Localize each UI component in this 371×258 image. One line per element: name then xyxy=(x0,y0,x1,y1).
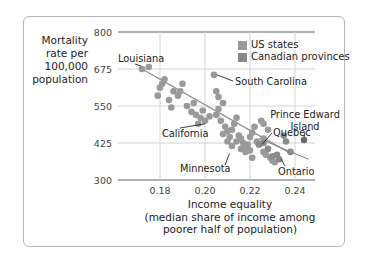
annotation-label: California xyxy=(162,128,209,139)
us-state-point xyxy=(168,104,175,111)
us-state-point xyxy=(213,112,220,119)
us-state-point xyxy=(220,100,227,107)
y-tick-label: 675 xyxy=(94,64,112,75)
us-state-point xyxy=(215,94,222,101)
us-state-point xyxy=(249,155,256,162)
us-state-point xyxy=(265,126,272,133)
x-tick-label: 0.18 xyxy=(149,185,170,196)
us-state-point xyxy=(184,103,191,110)
canadian-province-point xyxy=(287,149,294,156)
x-axis-label-line: (median share of income among xyxy=(130,211,330,224)
y-tick-label: 800 xyxy=(94,27,112,38)
canadian-province-point xyxy=(283,138,290,145)
canadian-province-point xyxy=(269,153,276,160)
us-state-point xyxy=(220,131,227,138)
us-state-point xyxy=(233,115,240,122)
us-state-point xyxy=(251,123,258,130)
us-state-point xyxy=(213,88,220,95)
x-axis-label-line: poorer half of population) xyxy=(130,223,330,236)
us-state-point xyxy=(229,126,236,133)
us-state-point xyxy=(154,92,161,99)
y-tick-label: 425 xyxy=(94,138,112,149)
annotation-label: Minnesota xyxy=(180,163,231,174)
legend-swatch-canada xyxy=(238,53,247,62)
us-state-point xyxy=(244,141,251,148)
legend: US states Canadian provinces xyxy=(238,39,350,63)
us-state-point xyxy=(211,72,218,79)
annotation-label: Louisiana xyxy=(118,53,164,64)
us-state-point xyxy=(139,66,146,73)
us-state-point xyxy=(190,100,197,107)
us-state-point xyxy=(166,97,173,104)
us-state-point xyxy=(249,129,256,136)
us-state-point xyxy=(177,88,184,95)
legend-label: US states xyxy=(251,39,298,51)
us-state-point xyxy=(195,120,202,127)
annotation-label: Prince Edward xyxy=(270,109,340,120)
annotation-leader xyxy=(281,159,285,166)
legend-swatch-us xyxy=(238,41,247,50)
us-state-point xyxy=(260,120,267,127)
annotation-label: South Carolina xyxy=(235,76,307,87)
x-axis-label: Income equality (median share of income … xyxy=(130,198,330,236)
x-tick-label: 0.22 xyxy=(239,185,260,196)
us-state-point xyxy=(231,120,238,127)
us-state-point xyxy=(145,64,152,71)
us-state-point xyxy=(217,118,224,125)
annotation-label: Ontario xyxy=(278,166,315,177)
legend-item-us: US states xyxy=(238,39,350,51)
legend-item-canada: Canadian provinces xyxy=(238,51,350,63)
us-state-point xyxy=(224,138,231,145)
annotation-leader xyxy=(217,75,233,81)
y-tick-label: 300 xyxy=(94,175,112,186)
us-state-point xyxy=(179,81,186,88)
x-axis-label-line: Income equality xyxy=(130,198,330,211)
us-state-point xyxy=(206,113,213,120)
us-state-point xyxy=(238,146,245,153)
y-tick-label: 550 xyxy=(94,101,112,112)
us-state-point xyxy=(215,106,222,113)
x-tick-label: 0.20 xyxy=(194,185,215,196)
us-state-point xyxy=(199,107,206,114)
annotation-leader xyxy=(135,64,141,66)
canadian-province-point xyxy=(265,146,272,153)
legend-label: Canadian provinces xyxy=(251,51,350,63)
us-state-point xyxy=(161,76,168,83)
annotation-label: Quebec xyxy=(273,127,311,138)
x-tick-label: 0.24 xyxy=(284,185,305,196)
